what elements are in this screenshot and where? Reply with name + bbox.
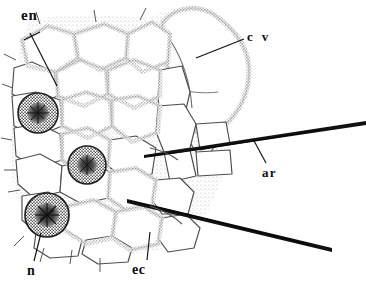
specimen-drawing [0, 0, 366, 290]
microscopy-figure: en c v ar n ec [0, 0, 366, 290]
label-ec: ec [132, 263, 146, 277]
chromatin-threads [35, 203, 59, 227]
label-cv: c v [247, 30, 271, 43]
label-n: n [27, 264, 36, 278]
label-ar: ar [262, 166, 277, 179]
cell [196, 150, 232, 176]
label-en: en [21, 8, 38, 23]
leader-ar [253, 139, 266, 163]
nucleus-upper-left [18, 93, 58, 133]
nucleus-lower-left [25, 193, 69, 237]
nucleus-middle [68, 146, 106, 184]
